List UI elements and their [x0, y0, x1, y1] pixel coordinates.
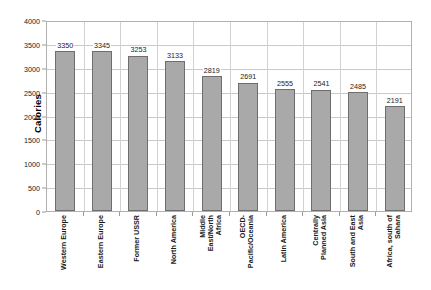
y-axis-tick-label: 3000 [24, 64, 40, 73]
bar-value-label: 2691 [239, 73, 257, 81]
x-axis-tick-mark [83, 212, 84, 216]
bar-slot: 3350 [47, 22, 84, 211]
bar-value-label: 2485 [349, 83, 367, 91]
bar [128, 56, 148, 211]
x-axis-tick-mark [156, 212, 157, 216]
bar-value-label: 2819 [203, 67, 221, 75]
bar-value-label: 3253 [129, 46, 147, 54]
x-axis-category-label: Western Europe [60, 215, 68, 270]
x-axis-tick-mark [375, 212, 376, 216]
x-axis-category-label: Africa, south of Sahara [385, 215, 401, 268]
y-axis-tick-label: 2000 [24, 112, 40, 121]
x-axis-tick-mark [266, 212, 267, 216]
x-axis-category-label: Former USSR [133, 215, 141, 262]
bar-slot: 3133 [157, 22, 194, 211]
x-axis-tick-mark [229, 212, 230, 216]
y-axis-tick-label: 1500 [24, 136, 40, 145]
x-label-slot: Western Europe [46, 213, 83, 290]
bar [92, 51, 112, 211]
x-axis-category-label: North America [170, 215, 178, 264]
y-axis-tick-label: 4000 [24, 17, 40, 26]
y-axis-tick-label: 500 [28, 184, 40, 193]
bar-value-label: 2191 [386, 97, 404, 105]
bar-slot: 2485 [340, 22, 377, 211]
x-axis-category-label: Latin America [280, 215, 288, 262]
x-label-slot: Eastern Europe [83, 213, 120, 290]
x-axis-tick-mark [339, 212, 340, 216]
x-label-slot: Latin America [266, 213, 303, 290]
calories-bar-chart: Calories 0500100015002000250030003500400… [0, 0, 431, 290]
y-axis-tick-label: 1000 [24, 160, 40, 169]
bar-value-label: 2555 [276, 80, 294, 88]
y-axis-tick-label: 2500 [24, 88, 40, 97]
bar [348, 92, 368, 211]
x-axis-category-label: Eastern Europe [97, 215, 105, 268]
x-axis-tick-mark [192, 212, 193, 216]
y-axis-tick-labels: 05001000150020002500300035004000 [0, 0, 46, 290]
bar [275, 89, 295, 211]
x-axis-category-label: Middle East/North Africa [198, 215, 223, 251]
x-label-slot: North America [156, 213, 193, 290]
x-axis-category-label: OECD- Pacific/Oceania [239, 215, 255, 268]
plot-area: 3350334532533133281926912555254124852191 [46, 21, 412, 212]
bar [385, 106, 405, 211]
x-label-slot: OECD- Pacific/Oceania [229, 213, 266, 290]
bar [202, 76, 222, 211]
x-label-slot: South and East Asia [339, 213, 376, 290]
y-axis-tick-label: 3500 [24, 40, 40, 49]
x-axis-category-label: South and East Asia [349, 215, 365, 267]
bar [238, 83, 258, 211]
bar-slot: 2541 [303, 22, 340, 211]
x-label-slot: Centrally Planned Asia [302, 213, 339, 290]
x-axis-tick-mark [119, 212, 120, 216]
x-label-slot: Middle East/North Africa [192, 213, 229, 290]
bar-slot: 2819 [193, 22, 230, 211]
bar [311, 90, 331, 211]
bar-slot: 3345 [84, 22, 121, 211]
x-label-slot: Former USSR [119, 213, 156, 290]
bar-series: 3350334532533133281926912555254124852191 [47, 22, 411, 211]
bar-slot: 2691 [230, 22, 267, 211]
bar-slot: 2555 [267, 22, 304, 211]
y-axis-tick-label: 0 [36, 208, 40, 217]
bar [165, 61, 185, 211]
bar-value-label: 3345 [93, 42, 111, 50]
bar-value-label: 3350 [56, 42, 74, 50]
x-axis-category-labels: Western EuropeEastern EuropeFormer USSRN… [46, 213, 412, 290]
bar-slot: 2191 [376, 22, 413, 211]
bar-slot: 3253 [120, 22, 157, 211]
x-label-slot: Africa, south of Sahara [375, 213, 412, 290]
x-axis-tick-mark [302, 212, 303, 216]
x-axis-category-label: Centrally Planned Asia [312, 215, 328, 260]
bar [55, 51, 75, 211]
bar-value-label: 2541 [312, 80, 330, 88]
bar-value-label: 3133 [166, 52, 184, 60]
